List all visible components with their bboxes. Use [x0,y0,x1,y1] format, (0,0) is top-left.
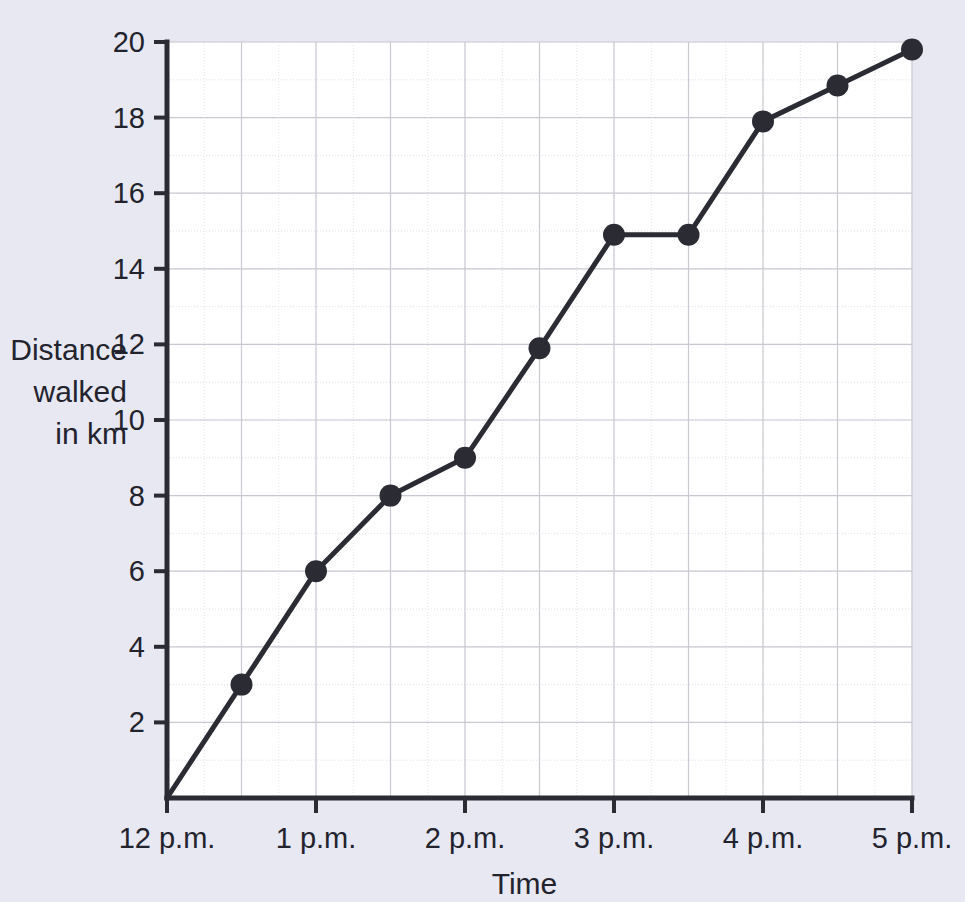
y-axis-tick-label: 8 [129,480,145,512]
x-axis-title: Time [492,867,558,900]
distance-time-line-chart: 246810121416182012 p.m.1 p.m.2 p.m.3 p.m… [0,0,965,902]
x-axis-tick-label: 3 p.m. [574,822,655,854]
data-point-marker[interactable] [454,447,476,469]
y-axis-tick-label: 4 [129,631,145,663]
y-axis-title-line: Distance [10,333,127,366]
y-axis-tick-label: 2 [129,706,145,738]
data-point-marker[interactable] [901,39,923,61]
data-point-marker[interactable] [529,337,551,359]
data-point-marker[interactable] [603,224,625,246]
chart-container: 246810121416182012 p.m.1 p.m.2 p.m.3 p.m… [0,0,965,902]
x-axis-tick-label: 2 p.m. [425,822,506,854]
y-axis-tick-label: 6 [129,555,145,587]
y-axis-tick-label: 16 [113,177,145,209]
x-axis-ticks: 12 p.m.1 p.m.2 p.m.3 p.m.4 p.m.5 p.m. [119,798,953,854]
x-axis-tick-label: 1 p.m. [276,822,357,854]
y-axis-tick-label: 14 [113,253,145,285]
y-axis-title-line: walked [33,375,127,408]
x-axis-tick-label: 4 p.m. [723,822,804,854]
x-axis-tick-label: 12 p.m. [119,822,216,854]
y-axis-title-line: in km [55,417,127,450]
y-axis-title: Distancewalkedin km [10,333,127,450]
data-point-marker[interactable] [231,674,253,696]
data-point-marker[interactable] [305,560,327,582]
data-point-marker[interactable] [380,485,402,507]
data-point-marker[interactable] [678,224,700,246]
x-axis-tick-label: 5 p.m. [872,822,953,854]
data-point-marker[interactable] [827,74,849,96]
y-axis-tick-label: 18 [113,102,145,134]
data-point-marker[interactable] [752,110,774,132]
y-axis-tick-label: 20 [113,26,145,58]
